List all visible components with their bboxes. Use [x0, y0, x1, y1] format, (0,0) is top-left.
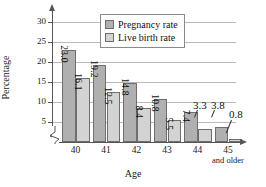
legend-label: Live birth rate	[118, 32, 175, 43]
y-tick-label: 15	[24, 77, 46, 86]
chart-legend: Pregnancy rate Live birth rate	[100, 14, 185, 48]
bar: 12.5	[107, 92, 121, 142]
bar-value-label: 10.8	[150, 94, 160, 111]
bar: 5.5	[168, 120, 182, 142]
y-tick-label: 25	[24, 37, 46, 46]
gridline	[52, 62, 236, 63]
bar-value-label: 8.4	[134, 106, 144, 118]
y-tick-label: 5	[24, 117, 46, 126]
y-axis-title: Percentage	[0, 36, 11, 120]
bar-value-label: 16.1	[73, 73, 83, 90]
y-tick-label: 30	[24, 17, 46, 26]
bar-value-label: 3.3	[193, 99, 207, 111]
y-tick-mark	[48, 122, 53, 123]
y-tick-mark	[48, 102, 53, 103]
bar: 23.0	[62, 50, 76, 142]
axis-break-icon	[46, 126, 62, 144]
legend-swatch-icon	[105, 33, 114, 42]
bar-value-label: 23.0	[59, 45, 69, 62]
legend-label: Pregnancy rate	[118, 19, 178, 30]
y-tick-label: 10	[24, 97, 46, 106]
y-axis-title-wrap: Percentage	[0, 38, 12, 122]
bar: 7.4	[184, 112, 198, 142]
y-tick-label: 20	[24, 57, 46, 66]
y-tick-mark	[48, 82, 53, 83]
bar-value-label: 0.8	[229, 108, 243, 120]
y-axis-arrow-icon	[49, 4, 55, 11]
bar: 16.1	[76, 78, 90, 142]
x-tick-sublabel: and older	[208, 156, 248, 165]
x-axis-arrow-icon	[240, 139, 247, 145]
y-tick-mark	[48, 22, 53, 23]
legend-item-pregnancy-rate: Pregnancy rate	[105, 18, 178, 31]
legend-swatch-icon	[105, 20, 114, 29]
x-axis-title: Age	[0, 168, 266, 179]
bar-value-label: 12.5	[103, 87, 113, 104]
x-axis-line	[52, 142, 240, 143]
bar-value-label: 14.8	[120, 78, 130, 95]
bar-value-label: 7.4	[181, 110, 191, 122]
bar-value-label: 5.5	[164, 118, 174, 130]
bar-chart: 23.016.119.212.514.88.410.85.57.4 510152…	[0, 0, 266, 187]
y-tick-mark	[48, 62, 53, 63]
bar-value-label: 19.2	[89, 60, 99, 77]
y-tick-mark	[48, 42, 53, 43]
bar: 8.4	[137, 108, 151, 142]
legend-item-live-birth-rate: Live birth rate	[105, 31, 178, 44]
bar	[198, 129, 212, 142]
x-tick-label: 45and older	[208, 146, 248, 165]
y-axis-line	[52, 10, 53, 143]
